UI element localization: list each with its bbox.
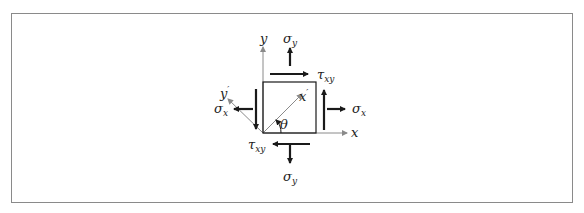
label-tau-xy-bottom: τxy bbox=[248, 137, 266, 154]
label-sigma-y-bottom: σy bbox=[283, 169, 298, 186]
y-prime-axis-arrow bbox=[228, 99, 263, 133]
label-tau-xy-top: τxy bbox=[317, 67, 335, 84]
label-sigma-y-top: σy bbox=[283, 31, 298, 48]
label-sigma-x-right: σx bbox=[352, 101, 366, 118]
label-y-axis: y bbox=[259, 31, 268, 46]
label-y-prime: y′ bbox=[219, 85, 229, 101]
label-x-prime: x′ bbox=[299, 88, 308, 104]
stress-element-diagram: y x y′ x′ θ σy σy σx σx τxy τxy bbox=[0, 0, 584, 213]
label-x-axis: x bbox=[351, 125, 359, 140]
label-sigma-x-left: σx bbox=[214, 101, 228, 118]
label-theta: θ bbox=[280, 117, 288, 132]
